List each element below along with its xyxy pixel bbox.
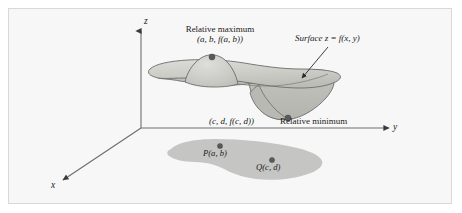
- surface-label: Surface z = f(x, y): [295, 33, 360, 43]
- relative-minimum-title: Relative minimum: [280, 116, 347, 126]
- domain-region: [167, 139, 322, 180]
- relative-maximum-label: Relative maximum (a, b, f(a, b)): [159, 24, 281, 44]
- surface: [148, 55, 340, 120]
- relative-maximum-dot: [209, 54, 215, 60]
- x-axis: [63, 128, 141, 180]
- figure-container: z y x Relative maximum (a, b, f(a, b)) S…: [0, 0, 462, 213]
- relative-maximum-title: Relative maximum: [159, 24, 281, 34]
- point-q-label: Q(c, d): [256, 163, 280, 173]
- relative-maximum-coords: (a, b, f(a, b)): [159, 34, 281, 44]
- z-axis-label: z: [144, 16, 148, 27]
- relative-minimum-coords: (c, d, f(c, d)): [209, 116, 254, 126]
- y-axis-label: y: [393, 122, 397, 133]
- x-axis-label: x: [51, 180, 55, 191]
- point-p-label: P(a, b): [203, 149, 227, 159]
